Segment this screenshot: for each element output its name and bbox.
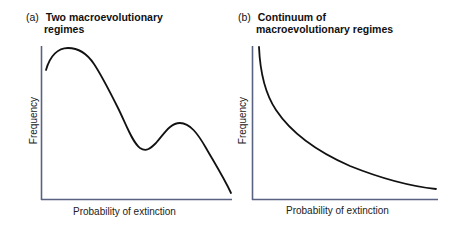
panel-b-curve: [259, 47, 436, 189]
panel-a-xlabel: Probability of extinction: [73, 206, 176, 217]
panel-a-curve: [46, 48, 231, 193]
charts-canvas: [0, 0, 455, 231]
panel-b-axes: [252, 46, 438, 200]
panel-a-axes: [41, 46, 232, 200]
panel-b-ylabel: Frequency: [237, 91, 248, 151]
panel-a-ylabel: Frequency: [28, 91, 39, 151]
panel-b-xlabel: Probability of extinction: [286, 205, 389, 216]
